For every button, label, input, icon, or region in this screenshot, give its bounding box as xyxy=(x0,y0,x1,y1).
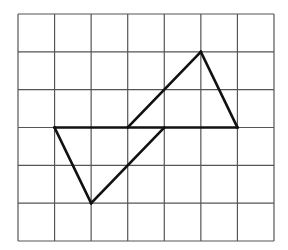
grid-diagram xyxy=(0,0,288,250)
triangle-figure xyxy=(55,52,238,203)
